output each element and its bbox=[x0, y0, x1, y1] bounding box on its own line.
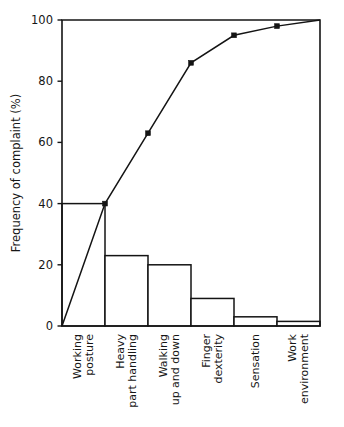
x-category-label-4: Sensation bbox=[249, 334, 262, 388]
y-axis-label: Frequency of complaint (%) bbox=[9, 94, 23, 252]
y-tick-label-20: 20 bbox=[38, 258, 53, 272]
bar-2 bbox=[148, 265, 191, 326]
x-category-label-1: Heavypart handling bbox=[114, 334, 139, 408]
x-category-label-5: Workenvironment bbox=[286, 333, 311, 404]
cumulative-point-4 bbox=[275, 24, 280, 29]
y-tick-label-80: 80 bbox=[38, 74, 53, 88]
bar-4 bbox=[234, 317, 277, 326]
cumulative-point-0 bbox=[103, 201, 108, 206]
x-axis-category-labels: WorkingpostureHeavypart handlingWalkingu… bbox=[71, 333, 311, 407]
chart-canvas: 020406080100 Frequency of complaint (%) … bbox=[0, 0, 344, 427]
bar-1 bbox=[105, 256, 148, 326]
cumulative-point-1 bbox=[146, 131, 151, 136]
bars-group bbox=[62, 204, 320, 326]
x-category-label-0-line-1: posture bbox=[83, 334, 96, 376]
cropped-header-text: · · · bbox=[0, 0, 344, 2]
x-category-label-3-line-1: dexterity bbox=[212, 334, 225, 384]
y-axis-ticks: 020406080100 bbox=[31, 13, 62, 333]
x-category-label-3: Fingerdexterity bbox=[200, 334, 225, 384]
y-tick-label-0: 0 bbox=[46, 319, 53, 333]
pareto-chart-figure: · · · 020406080100 Frequency of complain… bbox=[0, 0, 344, 427]
x-category-label-2-line-1: up and down bbox=[169, 334, 182, 405]
x-category-label-0: Workingposture bbox=[71, 334, 96, 379]
cumulative-point-2 bbox=[189, 60, 194, 65]
y-tick-label-100: 100 bbox=[31, 13, 53, 27]
y-tick-label-60: 60 bbox=[38, 135, 53, 149]
x-category-label-1-line-1: part handling bbox=[126, 334, 139, 408]
x-category-label-4-line-0: Sensation bbox=[249, 334, 262, 388]
y-axis-label-text: Frequency of complaint (%) bbox=[9, 94, 23, 252]
x-category-label-2: Walkingup and down bbox=[157, 334, 182, 405]
bar-3 bbox=[191, 298, 234, 326]
x-category-label-5-line-1: environment bbox=[298, 333, 311, 404]
y-tick-label-40: 40 bbox=[38, 197, 53, 211]
cumulative-point-3 bbox=[232, 33, 237, 38]
